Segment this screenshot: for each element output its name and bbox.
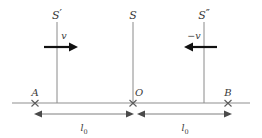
point-labels-group: A O B xyxy=(30,87,231,98)
dimension-right-arrowhead-start xyxy=(137,111,145,118)
dimension-right-group: l0 xyxy=(137,111,232,136)
point-label-a: A xyxy=(30,87,38,98)
dimension-right-label: l0 xyxy=(181,122,188,136)
velocity-label-minus-v: −v xyxy=(187,30,201,41)
dimension-left-arrowhead-start xyxy=(34,111,42,118)
point-label-b: B xyxy=(223,87,231,98)
frame-labels-group: S′ S S″ xyxy=(52,7,210,22)
physics-diagram: S′ S S″ v −v xyxy=(0,0,262,138)
velocity-arrow-left-head xyxy=(184,43,193,52)
frame-label-s-double-prime: S″ xyxy=(198,7,210,22)
dimension-right-arrowhead-end xyxy=(224,111,232,118)
frame-lines-group xyxy=(57,22,204,103)
diagram-canvas: S′ S S″ v −v xyxy=(0,0,262,138)
point-label-o: O xyxy=(135,87,143,98)
frame-label-s: S xyxy=(129,9,137,22)
velocity-arrow-right-group: v xyxy=(44,30,78,51)
velocity-arrow-left-group: −v xyxy=(184,30,217,51)
velocity-label-v: v xyxy=(61,30,67,41)
velocity-arrow-right-head xyxy=(69,43,78,52)
frame-label-s-prime: S′ xyxy=(52,7,63,22)
dimension-left-group: l0 xyxy=(34,111,134,136)
dimension-left-label: l0 xyxy=(80,122,87,136)
dimension-left-arrowhead-end xyxy=(126,111,134,118)
